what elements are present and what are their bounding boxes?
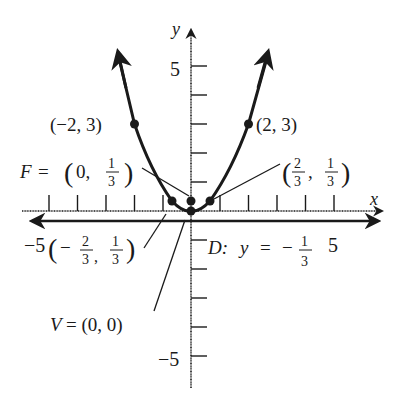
svg-text:(: ( [48,233,57,264]
svg-text:,: , [94,248,98,265]
svg-text:2: 2 [294,156,301,171]
label-point-neg2-3: (−2, 3) [50,114,102,136]
point-neg2over3 [168,197,177,206]
svg-text:3: 3 [108,174,115,189]
x-axis-label: x [369,189,378,209]
label-point-2-3: (2, 3) [256,114,297,136]
svg-text:−: − [282,237,293,258]
svg-text:F: F [19,161,32,182]
point-2-3 [244,120,253,129]
svg-text:(: ( [282,157,291,188]
x-tick-label-5: 5 [328,234,338,256]
y-tick-label-neg5: −5 [158,348,179,370]
svg-text:1: 1 [301,234,308,249]
parabola-curve [118,52,268,211]
svg-text:= (0, 0): = (0, 0) [66,314,123,336]
label-directrix: D: y = − 1 3 [207,234,312,269]
svg-text:=: = [38,161,49,182]
svg-text:1: 1 [327,156,334,171]
point-neg2-3 [130,120,139,129]
svg-text:3: 3 [294,174,301,189]
y-axis-label: y [170,19,180,39]
point-vertex [187,207,196,216]
svg-text:3: 3 [327,174,334,189]
svg-text:): ) [124,157,133,188]
plotted-points [130,120,253,216]
svg-text:D:: D: [207,237,228,258]
svg-text:=: = [260,237,271,258]
label-point-2over3: ( 2 3 , 1 3 ) [282,156,350,189]
x-tick-label-neg5: −5 [24,234,45,256]
parabola-chart: y x 5 −5 −5 5 (−2, 3) (2, 3) F = ( 0, 1 … [0,0,404,402]
svg-text:y: y [238,237,249,258]
svg-text:): ) [126,233,135,264]
label-focus: F = ( 0, 1 3 ) [19,156,133,189]
svg-text:2: 2 [82,234,89,249]
svg-text:V: V [50,314,64,335]
svg-text:1: 1 [108,156,115,171]
svg-text:3: 3 [82,252,89,267]
svg-text:3: 3 [301,254,308,269]
label-point-neg2over3: ( − 2 3 , 1 3 ) [48,233,135,267]
point-focus [187,197,196,206]
svg-text:,: , [308,161,313,182]
svg-text:0,: 0, [76,161,90,182]
point-2over3 [206,197,215,206]
svg-text:−: − [60,237,71,258]
y-tick-label-5: 5 [170,58,180,80]
svg-text:(: ( [64,157,73,188]
svg-text:1: 1 [112,234,119,249]
svg-text:3: 3 [112,252,119,267]
svg-text:): ) [341,157,350,188]
label-vertex: V = (0, 0) [50,314,123,336]
